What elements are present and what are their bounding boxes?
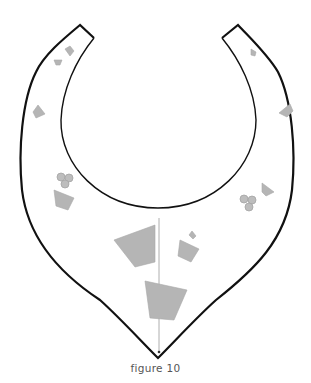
circle-cluster-right [240, 195, 256, 211]
appliqué-shape-right-1 [251, 49, 256, 56]
figure-caption: figure 10 [0, 362, 311, 374]
appliqué-shape-center-right [178, 240, 199, 262]
appliqué-shape-center-small-diamond [189, 231, 196, 239]
appliqué-shape-right-3 [262, 183, 274, 196]
appliqué-shape-center-large [114, 225, 155, 267]
grainline-end-dot [158, 351, 161, 354]
appliqué-shape-left-3 [33, 105, 45, 118]
appliqué-shape-bottom [145, 281, 187, 320]
appliqué-shape-left-2 [54, 60, 62, 65]
bib-pattern-diagram [0, 0, 311, 383]
appliqué-shape-left-1 [65, 46, 74, 56]
appliqué-shape-left-4 [54, 190, 74, 210]
circle-cluster-left [57, 173, 73, 188]
neck-inner-curve [61, 38, 256, 208]
